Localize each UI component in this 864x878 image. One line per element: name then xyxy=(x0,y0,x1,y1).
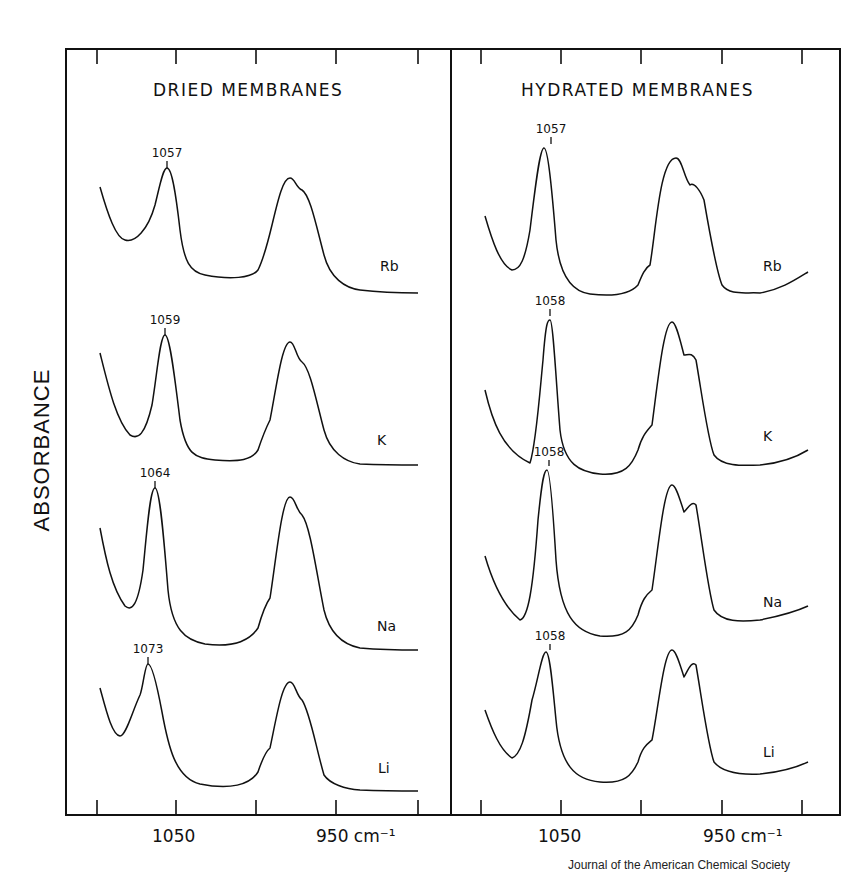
peak-label-hydrated-na: 1058 xyxy=(534,445,565,459)
curve-dried-na xyxy=(100,488,418,650)
curve-hydrated-rb xyxy=(485,148,808,295)
peak-label-hydrated-li: 1058 xyxy=(535,629,566,643)
curve-dried-rb xyxy=(100,168,418,293)
peak-label-dried-li: 1073 xyxy=(133,642,164,656)
peak-markers xyxy=(148,137,551,664)
series-label-dried-k: K xyxy=(377,432,386,448)
panel-title-dried: DRIED MEMBRANES xyxy=(153,80,343,100)
spectra-curves xyxy=(100,137,808,791)
peak-label-dried-na: 1064 xyxy=(140,466,171,480)
peak-label-hydrated-k: 1058 xyxy=(535,294,566,308)
y-axis-label: ABSORBANCE xyxy=(29,369,55,532)
series-label-dried-na: Na xyxy=(377,618,396,634)
curve-dried-k xyxy=(100,335,418,465)
left-panel-frame xyxy=(66,49,451,815)
bottom-ticks xyxy=(97,800,802,815)
curve-hydrated-li xyxy=(485,650,808,782)
x-tick-1050-left: 1050 xyxy=(152,826,195,846)
series-label-dried-rb: Rb xyxy=(380,258,399,274)
series-label-hydrated-rb: Rb xyxy=(763,258,782,274)
curve-hydrated-na xyxy=(485,470,808,636)
series-label-hydrated-li: Li xyxy=(763,744,775,760)
series-label-hydrated-na: Na xyxy=(763,594,782,610)
peak-label-dried-k: 1059 xyxy=(150,313,181,327)
curve-dried-li xyxy=(100,664,418,791)
panel-title-hydrated: HYDRATED MEMBRANES xyxy=(521,80,754,100)
peak-label-hydrated-rb: 1057 xyxy=(536,122,567,136)
top-ticks xyxy=(97,49,802,64)
series-label-hydrated-k: K xyxy=(763,428,772,444)
spectra-figure xyxy=(0,0,864,878)
x-tick-950-right: 950 cm⁻¹ xyxy=(703,826,783,846)
peak-label-dried-rb: 1057 xyxy=(152,146,183,160)
series-label-dried-li: Li xyxy=(378,760,390,776)
x-tick-950-left: 950 cm⁻¹ xyxy=(316,826,396,846)
x-tick-1050-right: 1050 xyxy=(538,826,581,846)
source-caption: Journal of the American Chemical Society xyxy=(568,858,790,872)
